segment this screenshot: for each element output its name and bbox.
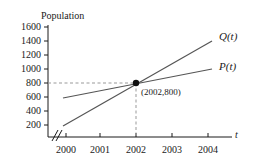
y-tick-label-200: 200: [11, 120, 41, 130]
y-tick-label-1000: 1000: [11, 64, 41, 74]
x-tick-label-2003: 2003: [156, 145, 188, 155]
y-tick-label-1600: 1600: [11, 22, 41, 32]
y-tick-label-400: 400: [11, 106, 41, 116]
y-tick-label-600: 600: [11, 92, 41, 102]
y-tick-marks: [44, 27, 48, 125]
y-tick-label-1200: 1200: [11, 50, 41, 60]
population-line-chart: Population 1600 1400 1200 1000 800 600 4…: [0, 0, 254, 167]
x-tick-label-2004: 2004: [192, 145, 224, 155]
y-tick-label-1400: 1400: [11, 36, 41, 46]
y-tick-label-800: 800: [11, 78, 41, 88]
p-curve-label: P(t): [219, 61, 236, 72]
x-axis-variable-label: t: [235, 130, 238, 140]
axis-break-mark: [52, 130, 62, 141]
q-curve-label: Q(t): [219, 31, 237, 42]
y-axis-title: Population: [41, 11, 84, 21]
x-tick-label-2002: 2002: [120, 145, 152, 155]
x-tick-label-2000: 2000: [50, 145, 82, 155]
x-tick-marks: [66, 133, 208, 137]
intersection-point-dot: [133, 80, 139, 86]
intersection-annotation: (2002,800): [141, 88, 181, 97]
x-tick-label-2001: 2001: [84, 145, 116, 155]
